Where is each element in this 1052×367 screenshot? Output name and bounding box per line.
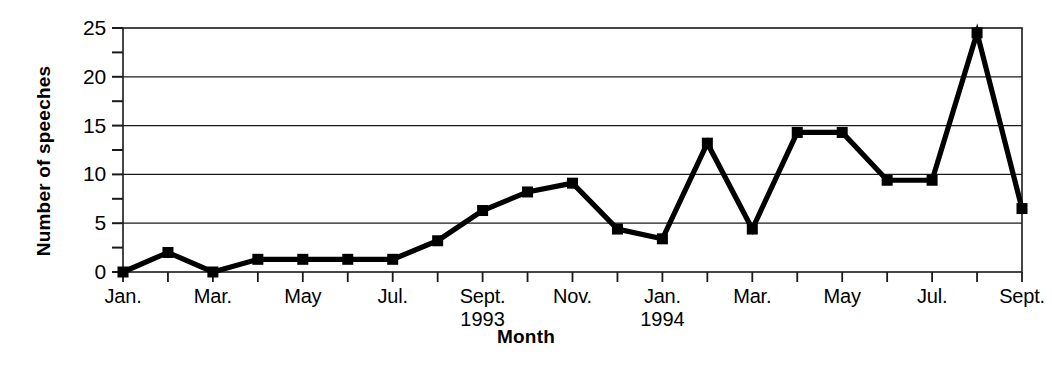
data-point-marker — [792, 127, 803, 138]
data-point-marker — [837, 127, 848, 138]
plot-frame — [123, 28, 1022, 272]
data-point-marker — [252, 254, 263, 265]
y-tick-label: 25 — [60, 17, 106, 38]
horizontal-gridlines — [123, 77, 1022, 223]
data-point-marker — [972, 27, 983, 38]
data-point-marker — [927, 175, 938, 186]
data-point-marker — [207, 267, 218, 278]
y-tick-label: 0 — [60, 261, 106, 282]
y-axis-ticks — [112, 28, 123, 272]
x-axis-ticks — [123, 272, 1022, 282]
data-point-marker — [162, 247, 173, 258]
data-point-marker — [387, 254, 398, 265]
data-point-marker — [118, 267, 129, 278]
data-point-marker — [1017, 203, 1028, 214]
data-point-marker — [477, 205, 488, 216]
data-point-marker — [702, 138, 713, 149]
speeches-line-chart: Number of speeches Month 0510152025Jan.M… — [0, 0, 1052, 367]
data-point-marker — [657, 233, 668, 244]
data-point-marker — [882, 175, 893, 186]
data-point-marker — [342, 254, 353, 265]
y-tick-label: 20 — [60, 66, 106, 87]
y-tick-label: 15 — [60, 115, 106, 136]
x-tick-label: Sept. — [962, 285, 1052, 307]
data-point-marker — [747, 224, 758, 235]
data-point-marker — [567, 178, 578, 189]
data-point-marker — [297, 254, 308, 265]
data-point-marker — [432, 235, 443, 246]
x-tick-year-label: 1993 — [423, 308, 543, 330]
data-point-marker — [612, 224, 623, 235]
data-series-line — [123, 33, 1022, 272]
data-point-markers — [118, 27, 1028, 277]
data-point-marker — [522, 186, 533, 197]
y-tick-label: 10 — [60, 163, 106, 184]
x-tick-year-label: 1994 — [602, 308, 722, 330]
y-tick-label: 5 — [60, 212, 106, 233]
